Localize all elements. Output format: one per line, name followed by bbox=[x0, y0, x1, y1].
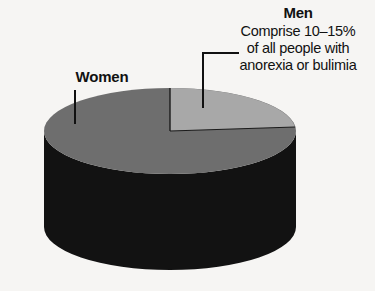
pie-chart-figure: Women Men Comprise 10–15% of all people … bbox=[0, 0, 375, 291]
label-men-line-3: anorexia or bulimia bbox=[222, 57, 374, 74]
slice-men-top bbox=[170, 88, 295, 131]
label-men: Men Comprise 10–15% of all people with a… bbox=[222, 4, 374, 74]
label-men-line-2: of all people with bbox=[222, 40, 374, 57]
label-men-line-1: Comprise 10–15% bbox=[222, 23, 374, 40]
label-men-title: Men bbox=[222, 4, 374, 22]
pie-top-surface bbox=[44, 88, 296, 174]
label-women: Women bbox=[42, 68, 162, 86]
label-women-text: Women bbox=[76, 68, 129, 85]
